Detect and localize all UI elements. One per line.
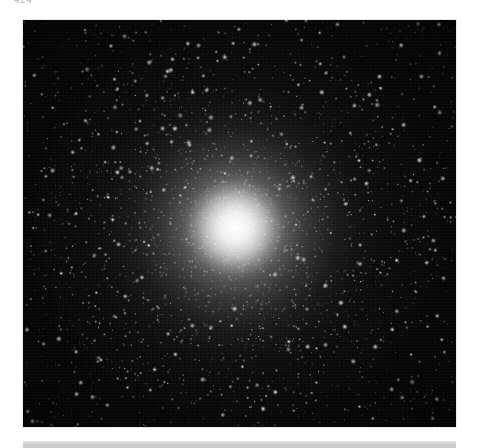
page-number-label: 424	[14, 0, 32, 5]
footer-gray-band	[23, 441, 456, 448]
page-canvas: 424	[0, 0, 477, 448]
plate-vignette	[23, 20, 456, 427]
astronomical-plate-image	[23, 20, 456, 427]
